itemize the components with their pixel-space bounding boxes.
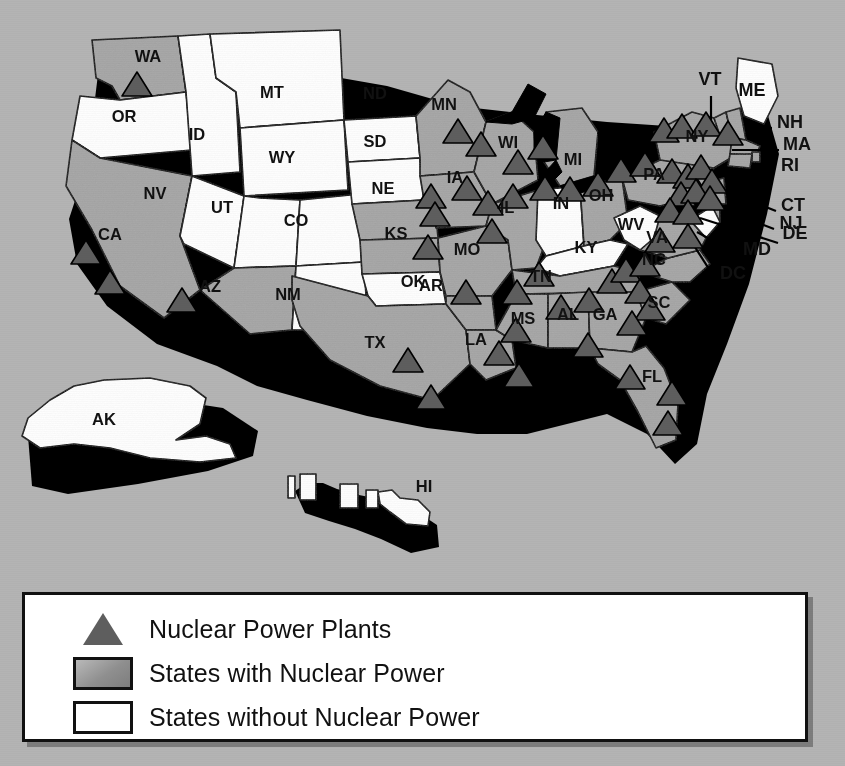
state-label-nd: ND xyxy=(363,84,387,102)
state-label-ny: NY xyxy=(686,127,709,145)
state-label-ar: AR xyxy=(419,276,443,294)
state-label-or: OR xyxy=(112,107,137,125)
state-CT[interactable] xyxy=(728,154,752,168)
filled-swatch-icon xyxy=(73,657,133,690)
legend-row-with-power: States with Nuclear Power xyxy=(25,651,805,695)
state-label-il: IL xyxy=(500,198,515,216)
state-label-id: ID xyxy=(189,125,206,143)
state-label-ks: KS xyxy=(385,224,408,242)
state-label-tx: TX xyxy=(364,333,385,351)
state-RI[interactable] xyxy=(752,152,760,162)
state-OR[interactable] xyxy=(72,92,192,158)
state-label-sd: SD xyxy=(364,132,387,150)
state-label-ak: AK xyxy=(92,410,116,428)
state-label-pa: PA xyxy=(643,165,665,183)
state-label-al: AL xyxy=(557,305,579,323)
map-legend: Nuclear Power Plants States with Nuclear… xyxy=(22,592,808,742)
legend-label-without-power: States without Nuclear Power xyxy=(149,703,480,732)
state-label-va: VA xyxy=(646,228,668,246)
triangle-marker-icon xyxy=(83,613,123,645)
state-label-hi: HI xyxy=(416,477,433,495)
callout-label-de: DE xyxy=(782,223,807,243)
state-label-mt: MT xyxy=(260,83,284,101)
state-label-ca: CA xyxy=(98,225,122,243)
state-label-wa: WA xyxy=(135,47,162,65)
state-label-sc: SC xyxy=(648,293,671,311)
state-label-mn: MN xyxy=(431,95,457,113)
callout-label-vt: VT xyxy=(698,69,721,89)
state-label-mo: MO xyxy=(454,240,481,258)
legend-key-without-power xyxy=(57,701,149,734)
legend-key-with-power xyxy=(57,657,149,690)
callout-label-dc: DC xyxy=(720,263,746,283)
state-label-ky: KY xyxy=(575,238,598,256)
callout-label-ma: MA xyxy=(783,134,811,154)
callout-label-me: ME xyxy=(739,80,766,100)
empty-swatch-icon xyxy=(73,701,133,734)
state-UT[interactable] xyxy=(234,196,300,268)
state-label-mi: MI xyxy=(564,150,582,168)
state-label-fl: FL xyxy=(642,367,662,385)
state-label-ut: UT xyxy=(211,198,233,216)
state-label-co: CO xyxy=(284,211,309,229)
legend-label-plants: Nuclear Power Plants xyxy=(149,615,391,644)
callout-label-md: MD xyxy=(743,239,771,259)
state-label-az: AZ xyxy=(199,277,221,295)
state-label-wv: WV xyxy=(618,215,645,233)
callout-label-ri: RI xyxy=(781,155,799,175)
state-label-nm: NM xyxy=(275,285,301,303)
state-label-ga: GA xyxy=(593,305,618,323)
legend-key-plants xyxy=(57,613,149,645)
state-label-la: LA xyxy=(465,330,487,348)
state-label-oh: OH xyxy=(589,186,614,204)
callout-label-nh: NH xyxy=(777,112,803,132)
state-label-in: IN xyxy=(553,194,570,212)
legend-row-plants: Nuclear Power Plants xyxy=(25,607,805,651)
state-label-wi: WI xyxy=(498,133,518,151)
state-label-wy: WY xyxy=(269,148,296,166)
map-figure: WAORIDMTWYNDSDNVUTCOCAAZNMNEKSOKTXMNIAMO… xyxy=(0,0,845,766)
state-label-nc: NC xyxy=(642,250,666,268)
us-map[interactable]: WAORIDMTWYNDSDNVUTCOCAAZNMNEKSOKTXMNIAMO… xyxy=(0,0,845,590)
state-label-ne: NE xyxy=(372,179,395,197)
state-label-nv: NV xyxy=(144,184,167,202)
state-label-ia: IA xyxy=(447,168,464,186)
state-label-ms: MS xyxy=(511,309,536,327)
legend-row-without-power: States without Nuclear Power xyxy=(25,695,805,739)
callout-label-ct: CT xyxy=(781,195,805,215)
state-label-tn: TN xyxy=(530,267,552,285)
legend-label-with-power: States with Nuclear Power xyxy=(149,659,445,688)
